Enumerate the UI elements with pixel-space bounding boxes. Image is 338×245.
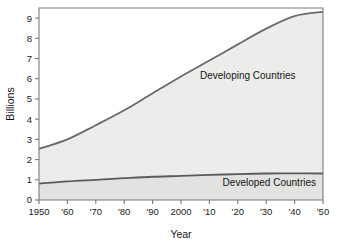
y-tick-label: 0 <box>27 194 32 205</box>
x-tick-label: '50 <box>317 206 329 217</box>
y-tick-label: 7 <box>27 53 32 64</box>
x-tick-label: '90 <box>146 206 158 217</box>
population-area-chart: 0123456789 1950'60'70'80'902000'10'20'30… <box>0 0 338 245</box>
y-axis-tick-labels: 0123456789 <box>27 13 32 206</box>
x-axis-ticks <box>39 200 323 204</box>
x-tick-label: '20 <box>232 206 244 217</box>
x-axis-tick-labels: 1950'60'70'80'902000'10'20'30'40'50 <box>28 206 329 217</box>
y-axis-ticks <box>35 18 39 200</box>
y-axis-title: Billions <box>4 87 16 120</box>
chart-canvas: 0123456789 1950'60'70'80'902000'10'20'30… <box>0 0 338 245</box>
x-tick-label: '60 <box>61 206 73 217</box>
x-axis-title: Year <box>170 228 192 240</box>
y-tick-label: 1 <box>27 174 32 185</box>
y-tick-label: 5 <box>27 93 32 104</box>
y-tick-label: 9 <box>27 13 32 24</box>
series-label-developing: Developing Countries <box>200 70 296 81</box>
x-tick-label: 1950 <box>28 206 49 217</box>
x-tick-label: '80 <box>118 206 130 217</box>
x-tick-label: '10 <box>203 206 215 217</box>
x-tick-label: '70 <box>90 206 102 217</box>
y-tick-label: 6 <box>27 73 32 84</box>
x-tick-label: '40 <box>288 206 300 217</box>
series-label-developed: Developed Countries <box>223 177 316 188</box>
x-tick-label: '30 <box>260 206 272 217</box>
x-tick-label: 2000 <box>170 206 191 217</box>
y-tick-label: 3 <box>27 134 32 145</box>
y-tick-label: 2 <box>27 154 32 165</box>
y-tick-label: 4 <box>27 114 32 125</box>
y-tick-label: 8 <box>27 33 32 44</box>
